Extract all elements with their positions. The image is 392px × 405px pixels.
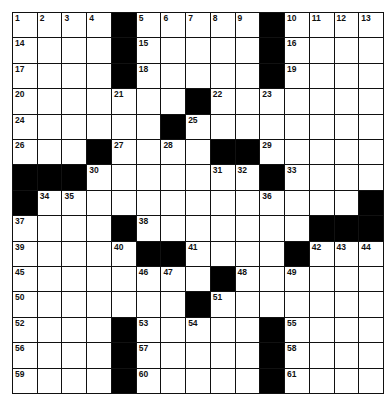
grid-cell[interactable] [335,292,359,316]
grid-cell[interactable] [186,343,210,367]
grid-cell[interactable] [87,38,111,62]
grid-cell[interactable] [359,343,383,367]
grid-cell[interactable]: 10 [285,13,309,37]
grid-cell[interactable]: 25 [186,115,210,139]
grid-cell[interactable] [310,191,334,215]
grid-cell[interactable]: 7 [186,13,210,37]
grid-cell[interactable] [310,89,334,113]
grid-cell[interactable] [236,38,260,62]
grid-cell[interactable] [112,115,136,139]
grid-cell[interactable]: 54 [186,318,210,342]
grid-cell[interactable] [62,89,86,113]
grid-cell[interactable] [236,216,260,240]
grid-cell[interactable] [38,115,62,139]
grid-cell[interactable] [38,267,62,291]
grid-cell[interactable] [62,292,86,316]
grid-cell[interactable]: 27 [112,140,136,164]
grid-cell[interactable] [285,89,309,113]
grid-cell[interactable] [310,38,334,62]
grid-cell[interactable] [359,140,383,164]
grid-cell[interactable]: 34 [38,191,62,215]
grid-cell[interactable] [38,89,62,113]
grid-cell[interactable] [62,38,86,62]
grid-cell[interactable] [310,64,334,88]
grid-cell[interactable]: 46 [137,267,161,291]
grid-cell[interactable]: 13 [359,13,383,37]
grid-cell[interactable]: 39 [13,242,37,266]
grid-cell[interactable]: 49 [285,267,309,291]
grid-cell[interactable] [260,292,284,316]
grid-cell[interactable] [112,267,136,291]
grid-cell[interactable] [137,89,161,113]
grid-cell[interactable] [186,216,210,240]
grid-cell[interactable] [62,369,86,393]
grid-cell[interactable] [87,318,111,342]
grid-cell[interactable] [87,64,111,88]
grid-cell[interactable] [186,165,210,189]
grid-cell[interactable] [161,38,185,62]
grid-cell[interactable] [335,369,359,393]
grid-cell[interactable] [211,242,235,266]
grid-cell[interactable]: 40 [112,242,136,266]
grid-cell[interactable]: 44 [359,242,383,266]
grid-cell[interactable] [359,165,383,189]
grid-cell[interactable] [236,89,260,113]
grid-cell[interactable] [285,292,309,316]
grid-cell[interactable] [62,140,86,164]
grid-cell[interactable] [236,292,260,316]
grid-cell[interactable] [62,216,86,240]
grid-cell[interactable] [161,191,185,215]
grid-cell[interactable]: 28 [161,140,185,164]
grid-cell[interactable]: 8 [211,13,235,37]
grid-cell[interactable] [310,292,334,316]
grid-cell[interactable] [62,343,86,367]
grid-cell[interactable] [186,267,210,291]
grid-cell[interactable] [310,318,334,342]
grid-cell[interactable]: 32 [236,165,260,189]
grid-cell[interactable] [161,292,185,316]
grid-cell[interactable] [285,140,309,164]
grid-cell[interactable]: 31 [211,165,235,189]
grid-cell[interactable] [62,64,86,88]
grid-cell[interactable] [112,292,136,316]
grid-cell[interactable] [335,343,359,367]
grid-cell[interactable] [38,38,62,62]
grid-cell[interactable] [87,292,111,316]
grid-cell[interactable] [87,115,111,139]
grid-cell[interactable]: 42 [310,242,334,266]
grid-cell[interactable] [161,343,185,367]
grid-cell[interactable] [38,343,62,367]
grid-cell[interactable] [335,115,359,139]
grid-cell[interactable] [310,343,334,367]
grid-cell[interactable]: 61 [285,369,309,393]
grid-cell[interactable] [359,89,383,113]
grid-cell[interactable] [161,165,185,189]
grid-cell[interactable] [87,343,111,367]
grid-cell[interactable] [186,191,210,215]
grid-cell[interactable]: 24 [13,115,37,139]
grid-cell[interactable] [87,191,111,215]
grid-cell[interactable] [38,242,62,266]
grid-cell[interactable] [335,165,359,189]
grid-cell[interactable]: 36 [260,191,284,215]
grid-cell[interactable] [260,115,284,139]
grid-cell[interactable] [359,64,383,88]
grid-cell[interactable] [137,165,161,189]
grid-cell[interactable] [236,343,260,367]
grid-cell[interactable]: 59 [13,369,37,393]
grid-cell[interactable] [335,140,359,164]
grid-cell[interactable]: 20 [13,89,37,113]
grid-cell[interactable] [359,318,383,342]
grid-cell[interactable] [236,318,260,342]
grid-cell[interactable] [137,140,161,164]
grid-cell[interactable] [359,115,383,139]
grid-cell[interactable] [161,318,185,342]
grid-cell[interactable]: 41 [186,242,210,266]
grid-cell[interactable]: 16 [285,38,309,62]
grid-cell[interactable] [38,140,62,164]
grid-cell[interactable]: 60 [137,369,161,393]
grid-cell[interactable]: 9 [236,13,260,37]
grid-cell[interactable] [359,267,383,291]
grid-cell[interactable]: 45 [13,267,37,291]
grid-cell[interactable]: 48 [236,267,260,291]
